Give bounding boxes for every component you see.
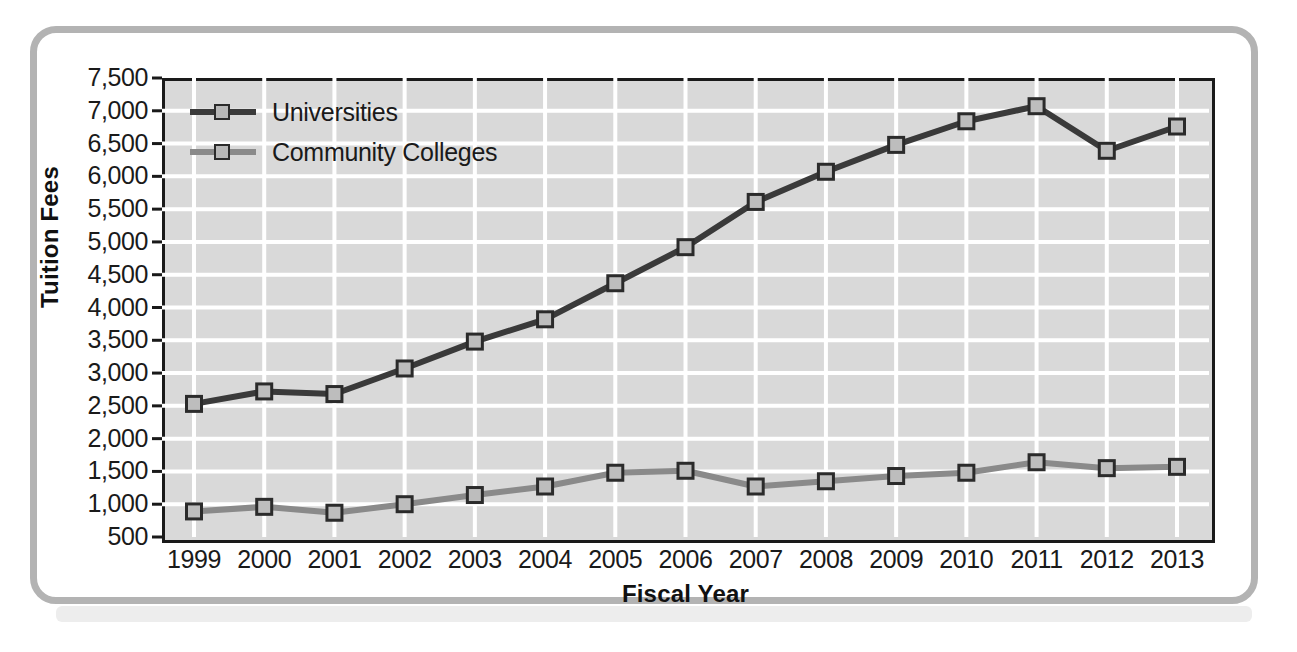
data-point-marker	[327, 387, 342, 402]
data-point-marker	[187, 504, 202, 519]
data-point-marker	[1099, 143, 1114, 158]
x-axis-tick-label: 2000	[237, 545, 291, 574]
y-axis-tick-label: 7,500	[56, 65, 148, 90]
x-axis-tick-label: 2005	[588, 545, 642, 574]
legend-marker-icon	[214, 104, 230, 120]
legend-label: Universities	[272, 98, 398, 127]
legend-swatch	[190, 101, 256, 123]
y-axis-tick-label: 5,500	[56, 196, 148, 221]
data-point-marker	[959, 114, 974, 129]
y-axis-tick-label: 3,000	[56, 360, 148, 385]
data-point-marker	[678, 240, 693, 255]
axis-ticks	[152, 78, 162, 537]
data-point-marker	[257, 499, 272, 514]
data-point-marker	[1029, 455, 1044, 470]
data-point-marker	[889, 469, 904, 484]
data-point-marker	[608, 465, 623, 480]
x-axis-tick-label: 2007	[729, 545, 783, 574]
x-axis-title: Fiscal Year	[162, 580, 1209, 608]
x-axis-tick-label: 2011	[1010, 545, 1062, 574]
data-point-marker	[748, 479, 763, 494]
y-axis-tick-label: 1,500	[56, 458, 148, 483]
data-point-marker	[187, 396, 202, 411]
data-point-marker	[467, 488, 482, 503]
legend-swatch	[190, 141, 256, 163]
y-axis-tick-label: 7,000	[56, 98, 148, 123]
x-axis-tick-label: 2003	[448, 545, 502, 574]
y-axis-tick-label: 2,000	[56, 426, 148, 451]
data-point-marker	[678, 463, 693, 478]
y-axis-title: Tuition Fees	[36, 166, 64, 308]
data-point-marker	[538, 479, 553, 494]
data-point-marker	[327, 505, 342, 520]
y-axis-tick-label: 3,500	[56, 327, 148, 352]
legend-label: Community Colleges	[272, 138, 497, 167]
x-axis-tick-label: 2010	[939, 545, 993, 574]
data-point-marker	[818, 164, 833, 179]
y-axis-tick-label: 5,000	[56, 229, 148, 254]
legend-marker-icon	[214, 144, 230, 160]
chart-legend: UniversitiesCommunity Colleges	[190, 92, 610, 172]
legend-item: Community Colleges	[190, 132, 610, 172]
y-axis-tick-label: 4,500	[56, 262, 148, 287]
x-axis-tick-labels: 1999200020012002200320042005200620072008…	[162, 545, 1209, 579]
legend-item: Universities	[190, 92, 610, 132]
data-point-marker	[748, 194, 763, 209]
x-axis-tick-label: 2013	[1150, 545, 1204, 574]
x-axis-tick-label: 2004	[518, 545, 572, 574]
y-axis-tick-label: 1,000	[56, 491, 148, 516]
y-axis-tick-labels: 7,5007,0006,5006,0005,5005,0004,5004,000…	[48, 0, 148, 652]
data-point-marker	[1170, 119, 1185, 134]
y-axis-tick-label: 2,500	[56, 393, 148, 418]
data-point-marker	[1170, 459, 1185, 474]
data-point-marker	[538, 312, 553, 327]
data-point-marker	[257, 384, 272, 399]
line-chart: 7,5007,0006,5006,0005,5005,0004,5004,000…	[0, 0, 1297, 652]
data-point-marker	[397, 497, 412, 512]
data-point-marker	[1029, 99, 1044, 114]
data-point-marker	[818, 474, 833, 489]
x-axis-tick-label: 2002	[378, 545, 432, 574]
x-axis-tick-label: 2001	[307, 545, 361, 574]
x-axis-tick-label: 2006	[658, 545, 712, 574]
data-point-marker	[959, 465, 974, 480]
data-point-marker	[608, 276, 623, 291]
x-axis-tick-label: 2009	[869, 545, 923, 574]
y-axis-tick-label: 6,000	[56, 163, 148, 188]
data-point-marker	[889, 137, 904, 152]
data-point-marker	[467, 334, 482, 349]
data-point-marker	[1099, 461, 1114, 476]
y-axis-tick-label: 500	[56, 524, 148, 549]
x-axis-tick-label: 1999	[167, 545, 221, 574]
y-axis-tick-label: 6,500	[56, 131, 148, 156]
x-axis-tick-label: 2008	[799, 545, 853, 574]
data-point-marker	[397, 361, 412, 376]
y-axis-tick-label: 4,000	[56, 295, 148, 320]
x-axis-tick-label: 2012	[1080, 545, 1134, 574]
